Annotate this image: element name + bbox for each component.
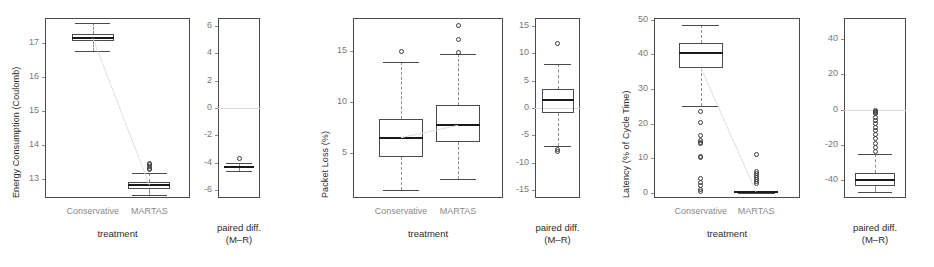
y-tick-label: -10 bbox=[501, 157, 529, 167]
y-tick-mark bbox=[532, 190, 535, 191]
plot-frame-packet-loss-treatment bbox=[353, 18, 503, 198]
whisker-cap bbox=[682, 106, 719, 107]
whisker-line bbox=[401, 62, 402, 119]
y-tick-label: 50 bbox=[620, 14, 648, 24]
y-tick-label: -4 bbox=[184, 157, 212, 167]
y-axis-title: Energy Consumption (Coulomb) bbox=[11, 67, 21, 198]
median-line bbox=[734, 191, 778, 193]
median-line bbox=[72, 37, 114, 39]
y-tick-label: -2 bbox=[184, 129, 212, 139]
whisker-line bbox=[458, 142, 459, 179]
y-tick-label: -15 bbox=[501, 184, 529, 194]
paired-diff-caption-line1: paired diff. bbox=[188, 222, 290, 234]
y-tick-mark bbox=[350, 51, 353, 52]
outlier-point bbox=[754, 152, 759, 157]
x-axis-title: treatment bbox=[634, 228, 820, 239]
category-label-martas: MARTAS bbox=[408, 206, 508, 216]
outlier-point bbox=[456, 50, 461, 55]
y-tick-mark bbox=[651, 158, 654, 159]
whisker-cap bbox=[440, 179, 477, 180]
outlier-point bbox=[456, 37, 461, 42]
paired-diff-caption-line1: paired diff. bbox=[505, 222, 610, 234]
y-tick-mark bbox=[215, 163, 218, 164]
y-tick-label: 15 bbox=[501, 20, 529, 30]
y-tick-label: 10 bbox=[319, 96, 347, 106]
y-tick-mark bbox=[215, 81, 218, 82]
outlier-point bbox=[873, 149, 878, 154]
whisker-line bbox=[558, 64, 559, 89]
y-tick-label: 0 bbox=[810, 104, 838, 114]
paired-diff-caption-line1: paired diff. bbox=[814, 222, 934, 234]
median-line bbox=[679, 52, 723, 54]
median-line bbox=[128, 184, 170, 186]
zero-reference-line bbox=[218, 108, 260, 109]
y-tick-label: 0 bbox=[501, 102, 529, 112]
y-tick-mark bbox=[841, 110, 844, 111]
outlier-point bbox=[237, 156, 242, 161]
y-tick-label: 0 bbox=[184, 102, 212, 112]
y-tick-mark bbox=[532, 26, 535, 27]
y-tick-label: 5 bbox=[501, 75, 529, 85]
whisker-cap bbox=[226, 171, 251, 172]
y-tick-mark bbox=[841, 180, 844, 181]
whisker-cap bbox=[132, 173, 167, 174]
whisker-line bbox=[875, 154, 876, 173]
y-tick-mark bbox=[215, 26, 218, 27]
whisker-line bbox=[558, 113, 559, 146]
median-line bbox=[542, 99, 574, 101]
y-tick-label: 6 bbox=[184, 20, 212, 30]
paired-diff-caption-line2: (M–R) bbox=[188, 234, 290, 246]
whisker-line bbox=[149, 173, 150, 183]
outlier-point bbox=[698, 133, 703, 138]
y-tick-mark bbox=[350, 153, 353, 154]
y-tick-label: 10 bbox=[501, 47, 529, 57]
x-axis-title: treatment bbox=[333, 228, 523, 239]
median-line bbox=[379, 137, 423, 139]
outlier-point bbox=[399, 49, 404, 54]
y-tick-mark bbox=[841, 145, 844, 146]
y-tick-mark bbox=[651, 193, 654, 194]
whisker-line bbox=[701, 25, 702, 43]
y-tick-label: 17 bbox=[11, 37, 39, 47]
box-martas bbox=[436, 105, 480, 142]
y-tick-mark bbox=[532, 135, 535, 136]
whisker-cap bbox=[75, 51, 110, 52]
y-tick-label: -6 bbox=[184, 184, 212, 194]
y-tick-mark bbox=[532, 108, 535, 109]
whisker-line bbox=[701, 68, 702, 106]
paired-diff-caption-line2: (M–R) bbox=[814, 234, 934, 246]
y-tick-mark bbox=[651, 20, 654, 21]
y-tick-label: 15 bbox=[319, 45, 347, 55]
y-tick-label: 40 bbox=[810, 33, 838, 43]
y-tick-label: -20 bbox=[810, 139, 838, 149]
whisker-cap bbox=[858, 154, 892, 155]
category-label-martas: MARTAS bbox=[99, 206, 199, 216]
y-tick-label: 20 bbox=[810, 68, 838, 78]
whisker-line bbox=[401, 157, 402, 190]
paired-diff-caption-line2: (M–R) bbox=[505, 234, 610, 246]
y-tick-mark bbox=[532, 53, 535, 54]
whisker-cap bbox=[682, 25, 719, 26]
boxplot-figure: 1314151617Energy Consumption (Coulomb)Co… bbox=[0, 0, 934, 267]
y-tick-mark bbox=[651, 89, 654, 90]
whisker-cap bbox=[75, 23, 110, 24]
y-tick-mark bbox=[215, 53, 218, 54]
outlier-point bbox=[555, 41, 560, 46]
category-label-martas: MARTAS bbox=[706, 206, 806, 216]
whisker-cap bbox=[226, 163, 251, 164]
median-line bbox=[855, 179, 895, 181]
y-tick-label: 4 bbox=[184, 47, 212, 57]
y-tick-mark bbox=[532, 163, 535, 164]
whisker-line bbox=[93, 23, 94, 34]
y-tick-label: 2 bbox=[184, 75, 212, 85]
y-tick-mark bbox=[42, 77, 45, 78]
y-tick-mark bbox=[841, 74, 844, 75]
y-tick-mark bbox=[42, 43, 45, 44]
whisker-cap bbox=[132, 195, 167, 196]
y-axis-title: Packet Loss (%) bbox=[320, 131, 330, 198]
whisker-line bbox=[93, 41, 94, 51]
y-tick-mark bbox=[651, 54, 654, 55]
y-tick-label: 40 bbox=[620, 48, 648, 58]
y-tick-mark bbox=[651, 124, 654, 125]
box-conservative bbox=[679, 43, 723, 68]
